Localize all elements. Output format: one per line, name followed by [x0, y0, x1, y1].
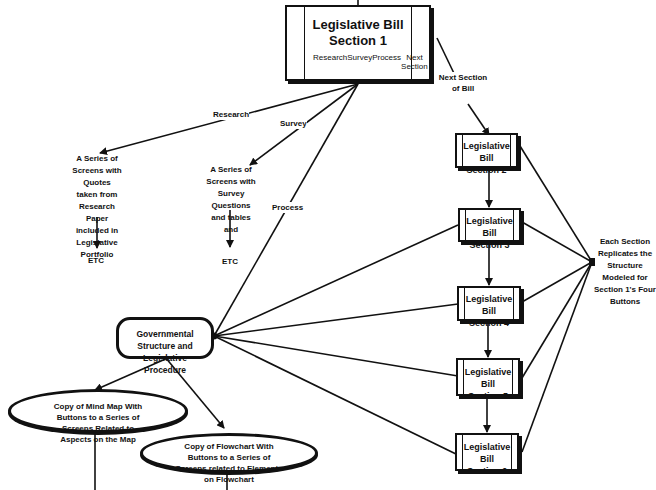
edge-label-next-section: Next Section of Bill	[438, 72, 488, 94]
section-1-buttons: Research Survey Process Next Section	[313, 53, 403, 71]
mind-map-node: Copy of Mind Map With Buttons to a Serie…	[8, 389, 188, 433]
section-3-node: Legislative Bill Section 3	[458, 208, 521, 242]
process-node: Governmental Structure and Legislative P…	[116, 317, 214, 359]
survey-target-text: A Series of Screens with Survey Question…	[204, 164, 258, 236]
section-5-node: Legislative Bill Section 5	[456, 358, 520, 396]
next-section-button[interactable]: Next Section	[401, 53, 428, 71]
replicates-note: Each Section Replicates the Structure Mo…	[594, 236, 656, 308]
section-4-node: Legislative Bill Section 4	[457, 286, 521, 321]
research-target-text: A Series of Screens with Quotes taken fr…	[72, 153, 122, 261]
survey-button[interactable]: Survey	[347, 53, 372, 71]
edge-label-process: Process	[272, 202, 303, 213]
etc-right: ETC	[222, 256, 238, 268]
process-button[interactable]: Process	[372, 53, 401, 71]
research-button[interactable]: Research	[313, 53, 347, 71]
etc-left: ETC	[88, 255, 104, 267]
section-6-node: Legislative Bill Section 6	[455, 433, 519, 471]
flowchart-node: Copy of Flowchart With Buttons to a Seri…	[140, 433, 318, 473]
section-1-node: Legislative Bill Section 1 Research Surv…	[285, 5, 431, 81]
edge-label-survey: Survey	[280, 118, 307, 129]
section-2-node: Legislative Bill Section 2	[455, 133, 518, 168]
section-1-title: Legislative Bill Section 1	[287, 7, 429, 49]
edge-label-research: Research	[213, 109, 249, 120]
